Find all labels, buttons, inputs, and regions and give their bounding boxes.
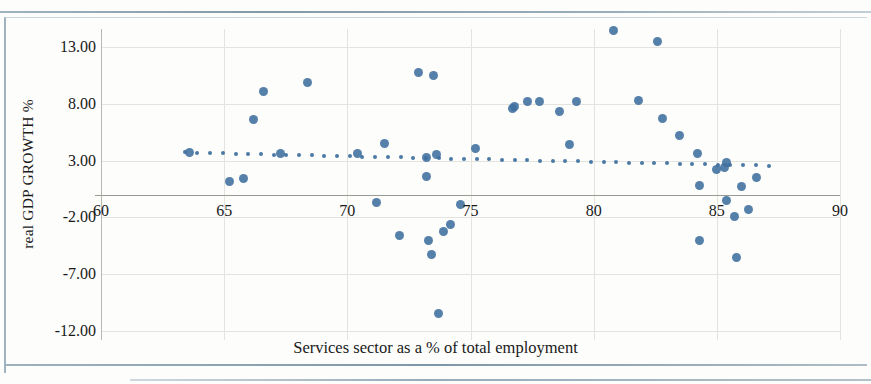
y-tick-label: -7.00 bbox=[63, 266, 96, 282]
scatter-point bbox=[429, 71, 438, 80]
trendline-marker bbox=[678, 162, 682, 166]
scan-artifact-top-line bbox=[0, 11, 871, 13]
trendline-marker bbox=[767, 164, 771, 168]
trendline-marker bbox=[335, 154, 339, 158]
trendline-marker bbox=[703, 162, 707, 166]
scatter-point bbox=[737, 182, 746, 191]
trendline-marker bbox=[322, 154, 326, 158]
x-tick-label: 60 bbox=[81, 203, 121, 219]
x-tick-label: 70 bbox=[327, 203, 367, 219]
scatter-point bbox=[555, 107, 564, 116]
scatter-point bbox=[695, 181, 704, 190]
trendline-marker bbox=[348, 154, 352, 158]
x-tick-label: 80 bbox=[574, 203, 614, 219]
scatter-point bbox=[471, 144, 480, 153]
scatter-point bbox=[695, 236, 704, 245]
scatter-point bbox=[744, 205, 753, 214]
scatter-point bbox=[658, 114, 667, 123]
trendline-marker bbox=[310, 153, 314, 157]
trendline-marker bbox=[500, 158, 504, 162]
trendline-marker bbox=[665, 161, 669, 165]
scatter-point bbox=[276, 149, 285, 158]
y-tick-label: -12.00 bbox=[55, 323, 96, 339]
trendline-marker bbox=[627, 161, 631, 165]
trendline-marker bbox=[411, 156, 415, 160]
trendline-marker bbox=[576, 159, 580, 163]
scatter-point bbox=[732, 253, 741, 262]
scatter-point bbox=[752, 173, 761, 182]
trendline-marker bbox=[741, 163, 745, 167]
scatter-point bbox=[303, 78, 312, 87]
scatter-point bbox=[353, 149, 362, 158]
scatter-point bbox=[634, 96, 643, 105]
y-tick-label: 3.00 bbox=[68, 153, 96, 169]
y-axis-title: real GDP GROWTH % bbox=[19, 84, 37, 264]
scatter-point bbox=[609, 26, 618, 35]
trendline-marker bbox=[640, 161, 644, 165]
scatter-point bbox=[422, 172, 431, 181]
trendline-marker bbox=[754, 163, 758, 167]
x-axis-title: Services sector as a % of total employme… bbox=[0, 338, 871, 358]
x-tick-label: 65 bbox=[204, 203, 244, 219]
trendline-marker bbox=[234, 152, 238, 156]
scatter-point bbox=[424, 236, 433, 245]
scatter-point bbox=[446, 220, 455, 229]
trendline-marker bbox=[690, 162, 694, 166]
trendline-marker bbox=[399, 155, 403, 159]
trendline-marker bbox=[589, 160, 593, 164]
scan-artifact-bottom-line bbox=[130, 379, 871, 381]
x-tick-label: 90 bbox=[820, 203, 860, 219]
chart-frame-bottom-line bbox=[4, 364, 867, 366]
trendline-marker bbox=[373, 155, 377, 159]
scatter-point bbox=[572, 97, 581, 106]
trendline-marker bbox=[538, 159, 542, 163]
gridline-vertical bbox=[594, 29, 595, 340]
scatter-point bbox=[653, 37, 662, 46]
trendline-marker bbox=[525, 158, 529, 162]
trendline-marker bbox=[272, 153, 276, 157]
y-axis-tick-labels: 13.008.003.00-2.00-7.00-12.00 bbox=[0, 0, 96, 384]
trendline-marker bbox=[602, 160, 606, 164]
scatter-point bbox=[565, 140, 574, 149]
trendline-marker bbox=[449, 157, 453, 161]
chart-page: 13.008.003.00-2.00-7.00-12.00 6065707580… bbox=[0, 0, 871, 384]
scatter-point bbox=[427, 250, 436, 259]
scatter-point bbox=[225, 177, 234, 186]
trendline-marker bbox=[614, 160, 618, 164]
scatter-point bbox=[434, 309, 443, 318]
trendline-marker bbox=[208, 151, 212, 155]
y-tick-label: 13.00 bbox=[60, 39, 96, 55]
gridline-vertical bbox=[840, 29, 841, 340]
scatter-point bbox=[185, 148, 194, 157]
y-tick-label: 8.00 bbox=[68, 96, 96, 112]
scatter-point bbox=[239, 174, 248, 183]
trendline-marker bbox=[551, 159, 555, 163]
trendline-marker bbox=[195, 151, 199, 155]
trendline-marker bbox=[652, 161, 656, 165]
scatter-point bbox=[414, 68, 423, 77]
scatter-point bbox=[395, 231, 404, 240]
gridline-vertical bbox=[717, 29, 718, 340]
scatter-point bbox=[510, 102, 519, 111]
x-tick-label: 85 bbox=[697, 203, 737, 219]
trendline-marker bbox=[386, 155, 390, 159]
scatter-point bbox=[523, 97, 532, 106]
scatter-point bbox=[259, 87, 268, 96]
scatter-point bbox=[249, 115, 258, 124]
scatter-point bbox=[693, 149, 702, 158]
trendline-marker bbox=[513, 158, 517, 162]
trendline-marker bbox=[563, 159, 567, 163]
trendline-marker bbox=[297, 153, 301, 157]
scatter-point bbox=[432, 150, 441, 159]
scatter-plot-area bbox=[101, 29, 840, 340]
trendline-marker bbox=[246, 152, 250, 156]
gridline-vertical bbox=[471, 29, 472, 340]
trendline-marker bbox=[259, 152, 263, 156]
scatter-point bbox=[380, 139, 389, 148]
gridline-vertical bbox=[347, 29, 348, 340]
scatter-point bbox=[675, 131, 684, 140]
y-axis-line bbox=[101, 29, 102, 340]
gridline-vertical bbox=[224, 29, 225, 340]
trendline-marker bbox=[475, 157, 479, 161]
scatter-point bbox=[422, 153, 431, 162]
